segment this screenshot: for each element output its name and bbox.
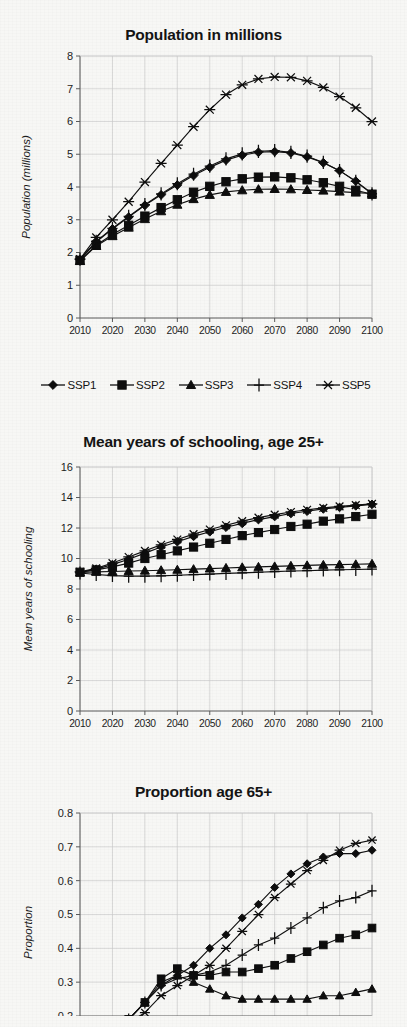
marker-diamond bbox=[303, 507, 312, 516]
x-tick-label: 2040 bbox=[167, 718, 189, 729]
series-line-ssp5 bbox=[80, 840, 372, 1016]
marker-plus bbox=[286, 146, 296, 159]
marker-plus bbox=[189, 168, 199, 181]
x-tick-label: 2010 bbox=[69, 718, 91, 729]
marker-square bbox=[222, 178, 230, 186]
marker-plus bbox=[302, 150, 312, 163]
x-tick-label: 2090 bbox=[329, 718, 351, 729]
series-line-ssp5 bbox=[80, 77, 372, 259]
marker-plus bbox=[367, 885, 376, 897]
legend-item-ssp1[interactable]: SSP1 bbox=[40, 376, 96, 394]
marker-diamond bbox=[303, 860, 311, 868]
y-tick-label: 8 bbox=[67, 583, 73, 595]
legend-item-ssp5[interactable]: SSP5 bbox=[315, 376, 371, 394]
page-title-schooling: Mean years of schooling, age 25+ bbox=[0, 415, 407, 451]
y-axis-title: Population (millions) bbox=[20, 135, 32, 239]
marker-square bbox=[271, 525, 279, 533]
marker-square bbox=[255, 965, 263, 973]
marker-square bbox=[271, 961, 279, 969]
marker-plus bbox=[319, 902, 328, 914]
marker-triangle bbox=[270, 184, 279, 192]
page-title-population: Population in millions bbox=[0, 0, 407, 44]
legend-label: SSP1 bbox=[67, 379, 96, 391]
y-tick-label: 6 bbox=[67, 115, 73, 127]
y-tick-label: 8 bbox=[67, 50, 73, 62]
y-tick-label: 10 bbox=[61, 552, 73, 564]
x-tick-label: 2070 bbox=[264, 325, 286, 336]
marker-asterisk bbox=[123, 198, 134, 206]
page-title-proportion: Proportion age 65+ bbox=[0, 735, 407, 801]
marker-plus bbox=[254, 939, 263, 951]
marker-square bbox=[287, 955, 295, 963]
legend-marker-diamond-icon bbox=[40, 376, 66, 394]
y-tick-label: 0.6 bbox=[58, 875, 73, 887]
marker-square bbox=[141, 554, 149, 562]
marker-square bbox=[303, 176, 311, 184]
marker-plus bbox=[238, 949, 247, 961]
chart-panel-population: Population in millions 01234567820102020… bbox=[0, 0, 407, 355]
marker-square bbox=[238, 175, 246, 183]
y-tick-label: 0.4 bbox=[58, 942, 73, 954]
x-tick-label: 2020 bbox=[102, 718, 124, 729]
x-tick-label: 2030 bbox=[134, 325, 156, 336]
marker-asterisk bbox=[221, 945, 231, 952]
marker-asterisk bbox=[156, 159, 167, 167]
legend-item-ssp3[interactable]: SSP3 bbox=[178, 376, 234, 394]
marker-square bbox=[336, 934, 344, 942]
y-tick-label: 5 bbox=[67, 148, 73, 160]
x-tick-label: 2070 bbox=[264, 718, 286, 729]
marker-square bbox=[238, 968, 246, 976]
marker-plus bbox=[286, 922, 295, 934]
marker-plus bbox=[270, 932, 279, 944]
marker-plus bbox=[253, 145, 263, 158]
series-line-ssp3 bbox=[80, 189, 372, 261]
x-tick-label: 2010 bbox=[69, 325, 91, 336]
legend-label: SSP5 bbox=[342, 379, 371, 391]
marker-plus bbox=[156, 187, 166, 200]
marker-diamond bbox=[335, 503, 344, 512]
marker-square bbox=[157, 551, 165, 559]
marker-plus bbox=[205, 159, 215, 172]
y-tick-label: 0.7 bbox=[58, 841, 73, 853]
series-line-ssp1 bbox=[80, 152, 372, 260]
y-tick-label: 7 bbox=[67, 83, 73, 95]
marker-square bbox=[254, 528, 262, 536]
legend-label: SSP2 bbox=[136, 379, 165, 391]
y-tick-label: 0 bbox=[67, 312, 73, 324]
legend-panel: SSP1SSP2SSP3SSP4SSP5 bbox=[0, 355, 407, 415]
y-tick-label: 2 bbox=[67, 246, 73, 258]
marker-square bbox=[320, 941, 328, 949]
marker-plus bbox=[318, 156, 328, 169]
x-tick-label: 2040 bbox=[167, 325, 189, 336]
legend-item-ssp4[interactable]: SSP4 bbox=[246, 376, 302, 394]
marker-asterisk bbox=[351, 840, 361, 847]
marker-square bbox=[238, 532, 246, 540]
marker-diamond bbox=[49, 381, 58, 390]
chart-panel-schooling: Mean years of schooling, age 25+ 0246810… bbox=[0, 415, 407, 735]
legend-marker-asterisk-icon bbox=[315, 376, 341, 394]
y-tick-label: 2 bbox=[67, 674, 73, 686]
marker-plus bbox=[335, 164, 345, 177]
legend-label: SSP4 bbox=[273, 379, 302, 391]
legend-item-ssp2[interactable]: SSP2 bbox=[109, 376, 165, 394]
y-tick-label: 12 bbox=[61, 522, 73, 534]
marker-asterisk bbox=[188, 123, 199, 131]
schooling-chart-svg: 0246810121416201020202030204020502060207… bbox=[0, 451, 407, 741]
x-tick-label: 2050 bbox=[199, 718, 221, 729]
y-tick-label: 6 bbox=[67, 613, 73, 625]
y-tick-label: 4 bbox=[67, 644, 73, 656]
x-tick-label: 2100 bbox=[361, 718, 383, 729]
marker-square bbox=[189, 543, 197, 551]
population-chart-svg: 0123456782010202020302040205020602070208… bbox=[0, 44, 407, 354]
y-axis-title: Mean years of schooling bbox=[22, 526, 34, 651]
y-tick-label: 14 bbox=[61, 491, 73, 503]
marker-square bbox=[222, 535, 230, 543]
y-tick-label: 0 bbox=[67, 705, 73, 717]
marker-plus bbox=[303, 912, 312, 924]
marker-square bbox=[173, 547, 181, 555]
marker-plus bbox=[172, 177, 182, 190]
marker-square bbox=[254, 173, 262, 181]
marker-square bbox=[287, 174, 295, 182]
marker-square bbox=[303, 520, 311, 528]
y-tick-label: 0.8 bbox=[58, 807, 73, 819]
